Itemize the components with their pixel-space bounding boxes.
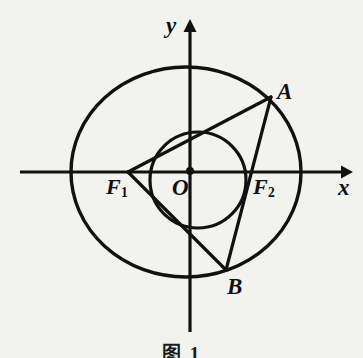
origin-point [186,167,194,175]
segment-F1-A [128,97,271,172]
figure-container: y x O A B F1 F2 图 1 [0,0,363,358]
inner-circle [150,132,246,228]
origin-label: O [172,176,189,199]
point-b-label: B [227,275,242,298]
focus-1-letter: F [106,174,121,199]
x-axis-label: x [338,176,350,199]
focus-1-label: F1 [106,176,128,200]
figure-caption: 图 1 [0,338,363,358]
point-a-label: A [277,80,292,103]
focus-2-label: F2 [253,176,275,200]
focus-2-subscript: 2 [268,185,275,200]
y-axis-arrow-icon [184,19,197,32]
focus-1-subscript: 1 [121,185,128,200]
focus-2-letter: F [253,174,268,199]
y-axis-label: y [166,14,176,37]
